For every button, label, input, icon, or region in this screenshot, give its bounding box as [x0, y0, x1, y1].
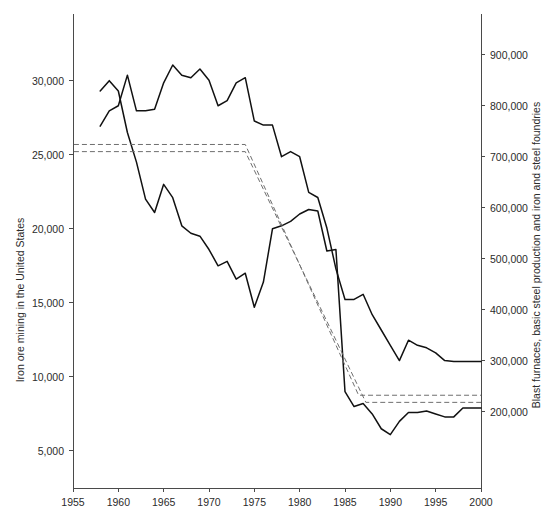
trend-line-dashed: [74, 144, 481, 395]
y2-tick-label: 200,000: [490, 406, 528, 418]
x-tick-label: 1970: [197, 496, 221, 508]
y-tick-label: 20,000: [32, 223, 64, 235]
y-tick-label: 5,000: [38, 445, 64, 457]
y-tick-label: 10,000: [32, 371, 64, 383]
x-tick-label: 2000: [469, 496, 493, 508]
y2-tick-label: 800,000: [490, 100, 528, 112]
axis-ticks: [69, 55, 485, 492]
y2-axis-title: Blast furnaces, basic steel production a…: [530, 102, 542, 408]
y2-tick-label: 400,000: [490, 304, 528, 316]
data-line-solid: [100, 65, 481, 362]
x-tick-label: 1975: [243, 496, 267, 508]
axes-frame: [73, 14, 481, 488]
y2-tick-label: 300,000: [490, 355, 528, 367]
y2-tick-label: 700,000: [490, 151, 528, 163]
y2-tick-label: 900,000: [490, 49, 528, 61]
y2-tick-label: 500,000: [490, 253, 528, 265]
data-series-group: [74, 65, 481, 435]
chart-container: 5,00010,00015,00020,00025,00030,000200,0…: [0, 0, 554, 528]
y-axis-title: Iron ore mining in the United States: [14, 218, 26, 383]
axis-tick-labels: 5,00010,00015,00020,00025,00030,000200,0…: [32, 49, 528, 508]
y2-tick-label: 600,000: [490, 202, 528, 214]
x-tick-label: 1960: [107, 496, 131, 508]
x-tick-label: 1990: [379, 496, 403, 508]
trend-line-dashed: [74, 152, 481, 403]
data-line-solid: [100, 81, 481, 435]
x-tick-label: 1985: [333, 496, 357, 508]
y-tick-label: 25,000: [32, 149, 64, 161]
x-tick-label: 1980: [288, 496, 312, 508]
x-tick-label: 1965: [152, 496, 176, 508]
y-tick-label: 30,000: [32, 75, 64, 87]
x-tick-label: 1995: [424, 496, 448, 508]
y-tick-label: 15,000: [32, 297, 64, 309]
x-tick-label: 1955: [61, 496, 85, 508]
line-chart: 5,00010,00015,00020,00025,00030,000200,0…: [0, 0, 554, 528]
